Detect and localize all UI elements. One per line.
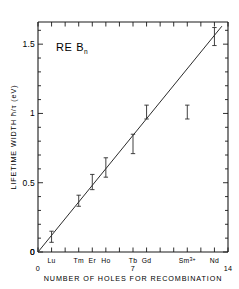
x-axis-title: NUMBER OF HOLES FOR RECOMBINATION xyxy=(44,274,223,283)
y-axis-title: LIFETIME WIDTH ħ/τ (eV) xyxy=(9,84,18,189)
series-annotation: RE Bn xyxy=(56,41,88,55)
element-label-lu: Lu xyxy=(47,257,55,264)
error-bar-sm3+ xyxy=(185,105,189,119)
y-tick-label: 1 xyxy=(30,108,35,118)
element-label-sm: Sm3+ xyxy=(179,256,196,264)
x-end-labels: 0714 xyxy=(36,264,232,273)
element-label-nd: Nd xyxy=(210,257,219,264)
element-label-ho: Ho xyxy=(101,257,110,264)
element-label-gd: Gd xyxy=(142,257,152,264)
fit-line xyxy=(38,26,222,252)
y-tick-label: 1.5 xyxy=(23,39,35,49)
data-error-bars xyxy=(49,28,216,243)
y-tick-labels: 00.511.50 xyxy=(23,39,35,257)
element-label-er: Er xyxy=(89,257,97,264)
figure-container: 00.511.50 LuTmErHoTbGdSm3+Nd 0714 RE Bn … xyxy=(0,0,239,289)
element-labels: LuTmErHoTbGdSm3+Nd xyxy=(47,256,219,264)
linear-fit-line xyxy=(38,26,222,252)
x-tick-label-7: 7 xyxy=(131,264,135,273)
x-tick-label-0: 0 xyxy=(36,264,40,273)
element-label-tm: Tm xyxy=(74,257,84,264)
y-tick-label: 0.5 xyxy=(23,178,35,188)
element-label-tb: Tb xyxy=(129,257,138,264)
x-tick-label-14: 14 xyxy=(224,264,233,273)
y-tick-label-zero: 0 xyxy=(30,247,35,257)
lifetime-width-scatter-plot: 00.511.50 LuTmErHoTbGdSm3+Nd 0714 RE Bn … xyxy=(0,0,239,289)
